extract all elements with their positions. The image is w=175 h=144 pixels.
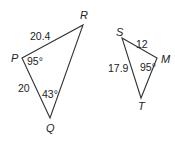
side-label-sm: 12 bbox=[136, 38, 148, 50]
side-label-pq: 20 bbox=[18, 82, 30, 94]
vertex-label-m: M bbox=[161, 53, 171, 65]
vertex-label-r: R bbox=[80, 9, 88, 21]
angle-label-q: 43° bbox=[42, 88, 58, 100]
angle-label-p: 95° bbox=[27, 55, 43, 67]
triangle-smt: S M T 12 17.9 95° bbox=[108, 26, 171, 112]
side-label-pr: 20.4 bbox=[30, 30, 51, 42]
triangle-pqr: P Q R 20.4 20 95° 43° bbox=[11, 9, 88, 134]
vertex-label-q: Q bbox=[46, 122, 55, 134]
vertex-label-t: T bbox=[138, 100, 146, 112]
side-label-st: 17.9 bbox=[108, 62, 129, 74]
vertex-label-s: S bbox=[116, 26, 124, 38]
vertex-label-p: P bbox=[11, 52, 19, 64]
angle-label-m: 95° bbox=[140, 61, 156, 73]
geometry-diagram: P Q R 20.4 20 95° 43° S M T 12 17.9 95° bbox=[0, 0, 175, 144]
